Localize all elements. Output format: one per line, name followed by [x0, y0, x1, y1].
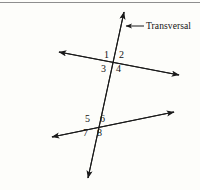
angle-label-2: 2	[119, 50, 124, 60]
transversal-line-reverse	[88, 12, 124, 178]
lower-line-reverse	[52, 112, 174, 137]
angle-label-4: 4	[116, 64, 121, 74]
angle-label-7: 7	[83, 128, 88, 138]
angle-label-1: 1	[104, 50, 109, 60]
angle-label-5: 5	[85, 114, 90, 124]
transversal-callout-label: Transversal	[146, 22, 191, 32]
angle-label-8: 8	[97, 128, 102, 138]
angle-label-6: 6	[100, 114, 105, 124]
geometry-figure: Transversal 1 2 3 4 5 6 7 8	[0, 0, 200, 190]
angle-label-3: 3	[101, 64, 106, 74]
